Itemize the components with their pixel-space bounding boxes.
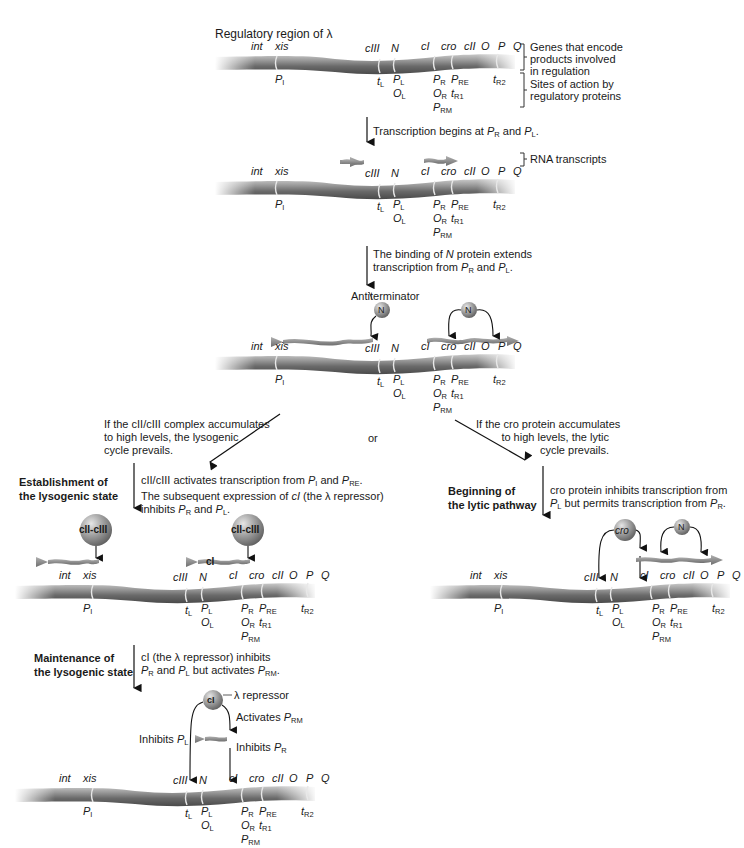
site-label-tr1: tR1: [259, 616, 272, 630]
cII-cIII-complex-left: [80, 514, 112, 558]
gene-label-q: Q: [513, 165, 522, 177]
site-label-tr1: tR1: [451, 387, 464, 401]
gene-label-ciii: cIII: [584, 571, 599, 583]
step1-text: Transcription begins at PR and PL.: [373, 125, 539, 141]
gene-label-q: Q: [732, 569, 741, 581]
gene-label-cii: cII: [464, 340, 476, 352]
site-label-tl: tL: [185, 807, 192, 821]
legend-sites: Sites of action by regulatory proteins: [530, 78, 621, 102]
gene-label-ci: cI: [421, 165, 430, 177]
gene-label-int: int: [251, 165, 263, 177]
site-label-tl: tL: [185, 604, 192, 618]
dna-strand-1: [215, 53, 517, 77]
site-label-pi: PI: [275, 73, 284, 87]
gene-label-cro: cro: [660, 569, 675, 581]
gene-label-n: N: [199, 774, 207, 786]
site-label-prm: PRM: [241, 630, 260, 644]
site-label-pr: PR: [433, 198, 446, 212]
legend-genes-line: products involved: [530, 53, 623, 65]
site-label-pre: PRE: [451, 73, 469, 87]
cro-ball-label: cro: [615, 524, 629, 537]
site-label-prm: PRM: [433, 226, 452, 240]
gene-label-cro: cro: [249, 772, 264, 784]
legend-sites-line: Sites of action by: [530, 78, 621, 90]
ci-transcript: [195, 735, 227, 743]
site-label-pl: PL: [393, 198, 405, 212]
gene-label-o: O: [481, 340, 490, 352]
maintenance-description: cI (the λ repressor) inhibits PR and PL …: [141, 651, 280, 680]
n-ball-label-lytic: N: [678, 521, 685, 534]
lysogenic-transcripts: [36, 557, 250, 567]
site-label-pi: PI: [275, 198, 284, 212]
site-label-tr2: tR2: [493, 373, 506, 387]
gene-label-q: Q: [321, 772, 330, 784]
gene-label-n: N: [199, 571, 207, 583]
gene-label-ciii: cIII: [365, 167, 380, 179]
gene-label-cii: cII: [683, 569, 695, 581]
site-label-or: OR: [241, 819, 255, 833]
lytic-condition: If the cro protein accumulates to high l…: [476, 418, 609, 457]
gene-label-cii: cII: [272, 569, 284, 581]
gene-label-p: P: [717, 569, 724, 581]
gene-label-xis: xis: [494, 569, 507, 581]
inhibits-pl-label: Inhibits PL: [139, 733, 188, 749]
n-ball-label-right: N: [465, 304, 472, 317]
site-label-or: OR: [433, 87, 447, 101]
site-label-pre: PRE: [451, 198, 469, 212]
legend-brackets: [520, 44, 527, 166]
site-label-tr2: tR2: [301, 805, 314, 819]
site-label-prm: PRM: [433, 101, 452, 115]
gene-label-n: N: [391, 42, 399, 54]
gene-label-cro: cro: [441, 40, 456, 52]
gene-label-q: Q: [321, 569, 330, 581]
gene-label-p: P: [498, 165, 505, 177]
repressor-label: λ repressor: [234, 689, 289, 702]
site-label-tl: tL: [596, 604, 603, 618]
legend-genes-line: in regulation: [530, 65, 623, 77]
maintenance-heading: Maintenance of the lysogenic state: [34, 651, 133, 679]
gene-label-p: P: [306, 772, 313, 784]
gene-label-cro: cro: [441, 165, 456, 177]
site-label-or: OR: [652, 616, 666, 630]
site-label-tr2: tR2: [712, 602, 725, 616]
gene-label-cro: cro: [249, 569, 264, 581]
site-label-pl: PL: [201, 805, 213, 819]
gene-label-xis: xis: [275, 40, 288, 52]
lytic-description: cro protein inhibits transcription from …: [550, 484, 727, 513]
step2-text: The binding of N protein extends transcr…: [373, 248, 532, 277]
gene-label-q: Q: [513, 340, 522, 352]
gene-label-ci: cI: [421, 340, 430, 352]
gene-label-xis: xis: [275, 165, 288, 177]
ci-transcript-label: cI: [206, 555, 214, 568]
site-label-pr: PR: [652, 602, 665, 616]
site-label-pr: PR: [241, 602, 254, 616]
ci-ball-label: cI: [207, 694, 215, 707]
legend-rna: RNA transcripts: [530, 153, 606, 166]
lytic-heading: Beginning of the lytic pathway: [448, 484, 537, 512]
dna-strand-2: [215, 178, 517, 202]
gene-label-int: int: [59, 569, 71, 581]
site-label-pre: PRE: [259, 602, 277, 616]
lytic-transcript: [636, 555, 723, 565]
gene-label-q: Q: [513, 40, 522, 52]
site-label-tr2: tR2: [301, 602, 314, 616]
site-label-pi: PI: [494, 602, 503, 616]
gene-label-int: int: [470, 569, 482, 581]
gene-label-cii: cII: [464, 165, 476, 177]
gene-label-o: O: [481, 165, 490, 177]
site-label-tr1: tR1: [451, 87, 464, 101]
gene-label-n: N: [610, 571, 618, 583]
legend-genes: Genes that encode products involved in r…: [530, 41, 623, 77]
gene-label-ciii: cIII: [173, 774, 188, 786]
gene-label-cii: cII: [464, 40, 476, 52]
site-label-tl: tL: [377, 375, 384, 389]
activates-prm-label: Activates PRM: [236, 711, 303, 727]
site-label-pl: PL: [393, 373, 405, 387]
gene-label-xis: xis: [83, 569, 96, 581]
site-label-tl: tL: [377, 75, 384, 89]
gene-label-cro: cro: [441, 340, 456, 352]
site-label-or: OR: [433, 212, 447, 226]
site-label-tr2: tR2: [493, 198, 506, 212]
gene-label-ciii: cIII: [365, 42, 380, 54]
gene-label-o: O: [700, 569, 709, 581]
